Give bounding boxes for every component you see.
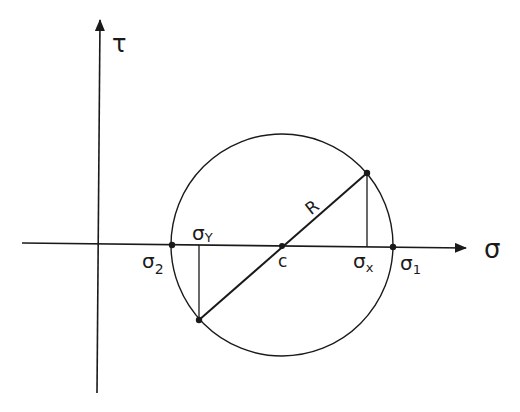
sigma-axis — [22, 243, 466, 248]
point-sigma-2 — [169, 242, 175, 248]
sigma-2-label: σ2 — [142, 249, 164, 277]
point-sigma-1 — [390, 244, 396, 250]
tau-axis — [97, 20, 100, 393]
point-stress-x — [364, 170, 370, 176]
center-label: c — [278, 251, 287, 271]
sigma-1-label: σ1 — [400, 251, 421, 277]
point-center — [279, 243, 285, 249]
mohr-circle-diagram: τ σ σ2 σY c σx σ1 R — [0, 0, 520, 412]
sigma-axis-label: σ — [484, 234, 500, 264]
sigma-x-label: σx — [353, 249, 374, 275]
sigma-y-label: σY — [192, 221, 213, 245]
point-stress-y — [196, 317, 202, 323]
tau-axis-label: τ — [112, 30, 126, 58]
